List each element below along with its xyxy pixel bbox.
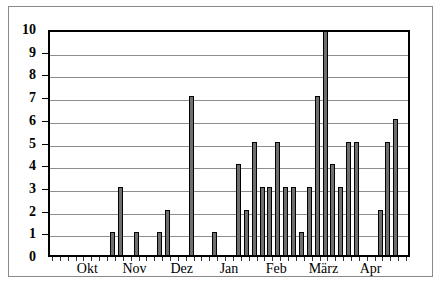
bar xyxy=(330,164,335,255)
y-tick-label: 3 xyxy=(29,182,36,196)
bar xyxy=(275,142,280,256)
bar-series xyxy=(50,32,408,255)
y-tick-label: 9 xyxy=(29,46,36,60)
bar xyxy=(236,164,241,255)
bar xyxy=(157,232,162,255)
x-month-label: März xyxy=(309,261,339,276)
bar xyxy=(291,187,296,255)
chart-figure: 012345678910 OktNovDezJanFebMärzApr xyxy=(0,0,442,293)
bar xyxy=(118,187,123,255)
bar xyxy=(393,119,398,255)
plot-area xyxy=(48,30,410,257)
bar xyxy=(315,96,320,255)
bar xyxy=(378,210,383,255)
x-month-label: Dez xyxy=(171,261,194,276)
bar xyxy=(165,210,170,255)
y-tick-label: 2 xyxy=(29,205,36,219)
bar xyxy=(134,232,139,255)
x-month-label: Nov xyxy=(123,261,147,276)
y-tick-label: 6 xyxy=(29,114,36,128)
x-month-label: Feb xyxy=(266,261,287,276)
bar xyxy=(283,187,288,255)
bar xyxy=(307,187,312,255)
y-tick-label: 10 xyxy=(22,23,36,37)
bar xyxy=(385,142,390,256)
bar xyxy=(354,142,359,256)
y-tick-label: 7 xyxy=(29,91,36,105)
y-axis: 012345678910 xyxy=(8,0,44,293)
x-month-label: Apr xyxy=(360,261,382,276)
bar xyxy=(252,142,257,256)
y-tick-label: 4 xyxy=(29,159,36,173)
y-tick-label: 8 xyxy=(29,68,36,82)
x-axis: OktNovDezJanFebMärzApr xyxy=(48,261,410,283)
bar xyxy=(244,210,249,255)
y-tick-label: 1 xyxy=(29,227,36,241)
bar xyxy=(189,96,194,255)
bar xyxy=(212,232,217,255)
y-tick-label: 5 xyxy=(29,137,36,151)
bar xyxy=(110,232,115,255)
bar xyxy=(346,142,351,256)
bar xyxy=(260,187,265,255)
bar xyxy=(267,187,272,255)
bar xyxy=(323,30,328,255)
bar xyxy=(338,187,343,255)
bar xyxy=(299,232,304,255)
x-month-label: Jan xyxy=(220,261,239,276)
y-tick-label: 0 xyxy=(29,250,36,264)
x-month-label: Okt xyxy=(77,261,98,276)
